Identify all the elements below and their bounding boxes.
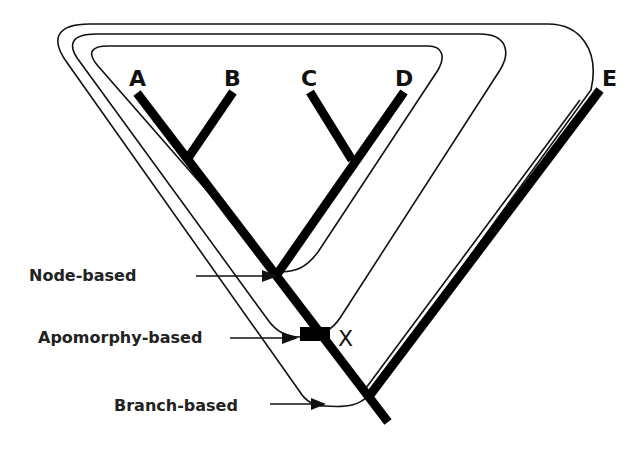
branch-e (370, 90, 600, 395)
taxon-label-a: A (129, 66, 146, 91)
taxon-label-c: C (301, 66, 317, 91)
node-based-arrow (196, 270, 278, 282)
apomorphy-based-label: Apomorphy-based (38, 328, 202, 347)
taxon-label-b: B (224, 66, 241, 91)
e-stem-outline (366, 100, 580, 388)
cladogram-diagram: A B C D E X Node-based Apomorphy-based B… (0, 0, 644, 450)
node-based-label: Node-based (29, 266, 136, 285)
branch-c (310, 92, 352, 160)
apomorphy-marker-box (300, 327, 330, 341)
branch-based-label: Branch-based (114, 396, 238, 415)
branch-d (278, 92, 404, 273)
taxon-label-e: E (602, 66, 617, 91)
branch-based-arrow (270, 398, 326, 410)
taxon-label-d: D (395, 66, 413, 91)
branch-a-trunk (137, 93, 388, 422)
apomorphy-label-x: X (338, 326, 353, 351)
branch-b (188, 92, 233, 158)
